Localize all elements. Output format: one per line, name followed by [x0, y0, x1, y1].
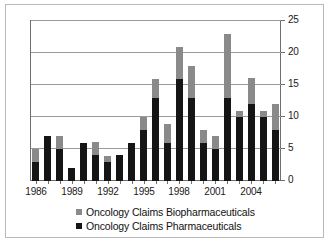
y-tick-label-15: 15	[288, 79, 299, 89]
bar-2003[interactable]	[236, 111, 243, 181]
x-tick-1999	[191, 181, 192, 184]
bar-segment-biopharmaceuticals-1991	[92, 142, 99, 155]
bar-segment-biopharmaceuticals-2006	[272, 104, 279, 130]
bar-segment-pharmaceuticals-1997	[164, 143, 171, 181]
legend-label-pharma: Oncology Claims Pharmaceuticals	[86, 220, 241, 232]
x-tick-label-2001: 2001	[204, 186, 225, 197]
x-tick-1993	[120, 181, 121, 184]
y-tick-label-5: 5	[288, 143, 293, 153]
x-tick-label-1989: 1989	[61, 186, 82, 197]
x-tick-2000	[203, 181, 204, 184]
x-tick-1987	[48, 181, 49, 184]
x-tick-2002	[227, 181, 228, 184]
x-tick-label-1998: 1998	[168, 186, 189, 197]
x-tick-1989	[72, 181, 73, 184]
chart-legend: Oncology Claims BiopharmaceuticalsOncolo…	[76, 205, 286, 233]
x-tick-1994	[132, 181, 133, 184]
bar-segment-biopharmaceuticals-1988	[56, 136, 63, 149]
bar-1988[interactable]	[56, 136, 63, 181]
bar-segment-biopharmaceuticals-1995	[140, 117, 147, 130]
bar-segment-pharmaceuticals-1994	[128, 143, 135, 181]
bar-segment-biopharmaceuticals-1997	[164, 124, 171, 143]
x-tick-1996	[156, 181, 157, 184]
bar-segment-pharmaceuticals-2006	[272, 130, 279, 181]
bar-segment-pharmaceuticals-2000	[200, 143, 207, 181]
y-tick-15	[281, 84, 285, 85]
x-tick-label-1992: 1992	[97, 186, 118, 197]
bar-2006[interactable]	[272, 104, 279, 181]
bar-1994[interactable]	[128, 143, 135, 181]
bar-segment-biopharmaceuticals-2000	[200, 130, 207, 143]
bar-segment-pharmaceuticals-1995	[140, 130, 147, 181]
bar-segment-pharmaceuticals-2005	[260, 117, 267, 181]
bar-1992[interactable]	[104, 156, 111, 181]
bar-segment-pharmaceuticals-2003	[236, 117, 243, 181]
bar-segment-biopharmaceuticals-1998	[176, 47, 183, 79]
bar-segment-biopharmaceuticals-1996	[152, 79, 159, 98]
bar-1997[interactable]	[164, 124, 171, 181]
bar-1993[interactable]	[116, 155, 123, 181]
bar-segment-pharmaceuticals-1987	[44, 136, 51, 181]
legend-swatch-icon-bio	[76, 209, 82, 215]
bar-segment-pharmaceuticals-1993	[116, 155, 123, 181]
bar-1999[interactable]	[188, 66, 195, 181]
bar-segment-pharmaceuticals-1990	[80, 143, 87, 181]
x-tick-1990	[84, 181, 85, 184]
x-tick-label-1986: 1986	[25, 186, 46, 197]
bar-segment-pharmaceuticals-1996	[152, 98, 159, 181]
bar-1995[interactable]	[140, 117, 147, 181]
bar-segment-pharmaceuticals-1989	[68, 168, 75, 181]
bar-1986[interactable]	[32, 149, 39, 181]
y-tick-25	[281, 20, 285, 21]
bar-2000[interactable]	[200, 130, 207, 181]
x-tick-1998	[179, 181, 180, 184]
y-tick-20	[281, 52, 285, 53]
x-tick-2004	[251, 181, 252, 184]
bar-1987[interactable]	[44, 136, 51, 181]
y-tick-5	[281, 148, 285, 149]
bar-segment-biopharmaceuticals-1986	[32, 149, 39, 162]
y-tick-label-10: 10	[288, 111, 299, 121]
legend-item-bio[interactable]: Oncology Claims Biopharmaceuticals	[76, 205, 286, 218]
x-tick-label-2004: 2004	[240, 186, 261, 197]
bar-segment-pharmaceuticals-1988	[56, 149, 63, 181]
x-tick-2005	[263, 181, 264, 184]
y-tick-label-20: 20	[288, 47, 299, 57]
bar-segment-pharmaceuticals-1999	[188, 98, 195, 181]
bar-segment-biopharmaceuticals-2002	[224, 34, 231, 98]
bar-1991[interactable]	[92, 142, 99, 181]
x-tick-1995	[144, 181, 145, 184]
bar-2002[interactable]	[224, 34, 231, 181]
y-tick-label-25: 25	[288, 15, 299, 25]
bar-segment-biopharmaceuticals-2004	[248, 78, 255, 104]
bar-series-layer	[30, 20, 281, 181]
bar-segment-pharmaceuticals-1992	[104, 162, 111, 181]
x-tick-1992	[108, 181, 109, 184]
x-tick-1997	[167, 181, 168, 184]
x-tick-2003	[239, 181, 240, 184]
bar-segment-pharmaceuticals-2004	[248, 104, 255, 181]
y-tick-label-0: 0	[288, 175, 293, 185]
legend-label-bio: Oncology Claims Biopharmaceuticals	[86, 206, 255, 218]
bar-segment-pharmaceuticals-1991	[92, 155, 99, 181]
bar-segment-biopharmaceuticals-2001	[212, 136, 219, 149]
x-tick-2006	[275, 181, 276, 184]
bar-1998[interactable]	[176, 47, 183, 181]
bar-segment-pharmaceuticals-2001	[212, 149, 219, 181]
y-tick-0	[281, 180, 285, 181]
bar-1989[interactable]	[68, 168, 75, 181]
x-tick-2001	[215, 181, 216, 184]
bar-segment-pharmaceuticals-2002	[224, 98, 231, 181]
bar-2005[interactable]	[260, 111, 267, 181]
x-tick-1988	[60, 181, 61, 184]
legend-item-pharma[interactable]: Oncology Claims Pharmaceuticals	[76, 219, 286, 232]
chart-figure: 0510152025 1986198919921995199820012004 …	[0, 0, 330, 244]
bar-1996[interactable]	[152, 79, 159, 181]
bar-1990[interactable]	[80, 143, 87, 181]
bar-2004[interactable]	[248, 78, 255, 181]
bar-2001[interactable]	[212, 136, 219, 181]
legend-swatch-icon-pharma	[76, 223, 82, 229]
bar-segment-biopharmaceuticals-1999	[188, 66, 195, 98]
x-tick-label-1995: 1995	[133, 186, 154, 197]
x-tick-1991	[96, 181, 97, 184]
